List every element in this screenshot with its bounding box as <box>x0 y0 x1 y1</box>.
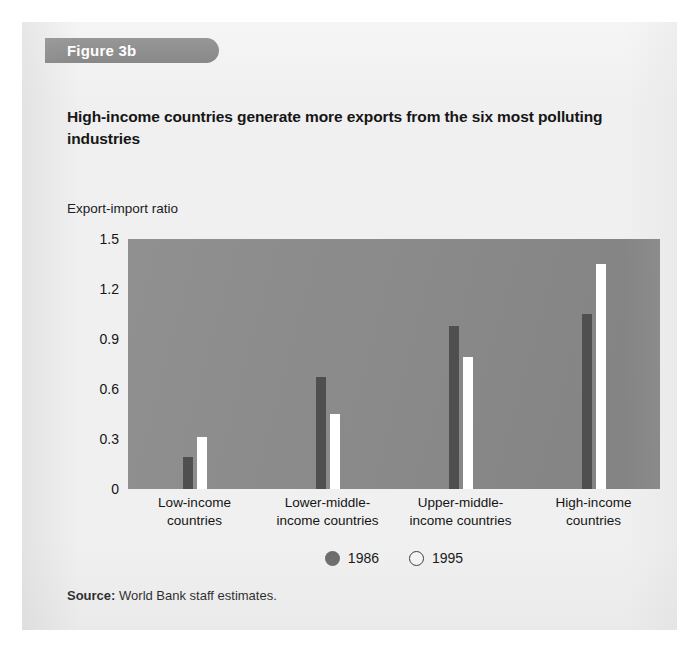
bar-1995-3[interactable] <box>463 357 473 489</box>
x-axis-label-3: Upper-middle-income countries <box>394 494 527 531</box>
bar-group <box>128 239 261 489</box>
bar-group <box>261 239 394 489</box>
chart-legend: 19861995 <box>128 550 660 566</box>
source-note: Source: World Bank staff estimates. <box>67 588 277 603</box>
y-axis-tick: 0.6 <box>100 381 119 397</box>
source-label: Source: <box>67 588 115 603</box>
y-axis-title: Export-import ratio <box>67 201 178 216</box>
figure-number-label: Figure 3b <box>67 42 136 59</box>
bar-group <box>394 239 527 489</box>
legend-item-1995[interactable]: 1995 <box>409 550 463 566</box>
y-axis-tick: 1.2 <box>100 281 119 297</box>
bar-1995-2[interactable] <box>330 414 340 489</box>
y-axis-tick: 1.5 <box>100 231 119 247</box>
figure-number-tab: Figure 3b <box>45 38 219 63</box>
bar-1986-4[interactable] <box>582 314 592 489</box>
bar-1995-4[interactable] <box>596 264 606 489</box>
bar-group <box>527 239 660 489</box>
hollow-circle-icon <box>409 551 424 566</box>
bar-1986-3[interactable] <box>449 326 459 489</box>
x-axis-label-4: High-incomecountries <box>527 494 660 531</box>
legend-label: 1986 <box>348 550 379 566</box>
figure-card: Figure 3b High-income countries generate… <box>22 22 677 630</box>
x-axis-category-labels: Low-incomecountriesLower-middle-income c… <box>128 494 660 538</box>
legend-item-1986[interactable]: 1986 <box>325 550 379 566</box>
y-axis-tick: 0.9 <box>100 331 119 347</box>
bar-1986-1[interactable] <box>183 457 193 489</box>
x-axis-label-1: Low-incomecountries <box>128 494 261 531</box>
chart-title: High-income countries generate more expo… <box>67 106 612 150</box>
x-axis-label-2: Lower-middle-income countries <box>261 494 394 531</box>
source-text: World Bank staff estimates. <box>119 588 277 603</box>
bar-1995-1[interactable] <box>197 437 207 489</box>
y-axis-tick: 0.3 <box>100 431 119 447</box>
bar-1986-2[interactable] <box>316 377 326 489</box>
plot-wrapper: 1.51.20.90.60.30 <box>128 239 660 489</box>
filled-circle-icon <box>325 551 340 566</box>
legend-label: 1995 <box>432 550 463 566</box>
y-axis-tick: 0 <box>111 481 119 497</box>
